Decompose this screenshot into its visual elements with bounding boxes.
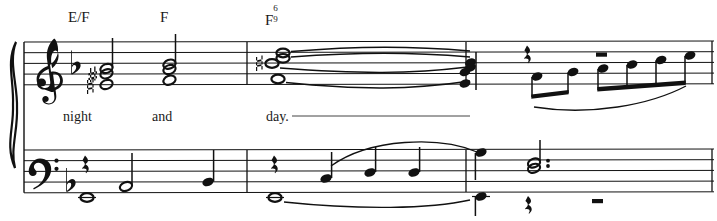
lyric-night: night [63, 110, 92, 124]
chord-extension-bottom: 9 [273, 15, 278, 24]
bass-quarter-rest-m1 [82, 155, 89, 173]
bass-slur-m2 [331, 142, 477, 166]
chord-symbol-2: F [160, 10, 168, 25]
whole-rest-bass [592, 199, 603, 203]
treble-clef-icon [37, 39, 63, 105]
beamed-eighths-group-1 [530, 66, 579, 98]
bass-quarter-rest-m3 [525, 196, 532, 214]
beamed-eighths-group-2 [596, 50, 696, 92]
bass-quarter-notes-m2 [319, 147, 421, 184]
treble-ties [280, 47, 470, 88]
chord-symbol-3: F69 [265, 10, 281, 28]
bass-dotted-half-chord-m3 [527, 140, 550, 174]
chord-symbol-3-extension: 69 [273, 10, 281, 25]
bass-quarter-note-m1 [201, 150, 215, 188]
lyric-and: and [152, 110, 172, 124]
chord-symbol-3-label: F [265, 12, 273, 28]
chord-symbol-1-label: E/F [68, 9, 90, 25]
chord-symbol-1: E/F [68, 10, 90, 25]
treble-key-signature-flat [71, 51, 80, 75]
quarter-rest-treble [524, 46, 531, 64]
bass-half-note-m1 [119, 153, 134, 193]
bass-tie-m2 [284, 200, 470, 207]
chord-symbol-2-label: F [160, 9, 168, 25]
notation-layer [0, 0, 717, 221]
whole-rest-treble [596, 53, 607, 57]
lyric-day: day. [266, 110, 289, 124]
system-brace [10, 42, 17, 168]
treble-chord-measure-1 [99, 38, 114, 91]
chord-extension-top: 6 [273, 4, 278, 13]
treble-chord-measure-3 [265, 49, 289, 84]
sheet-music-score: E/F F F69 night and day. [0, 0, 717, 221]
bass-clef-icon [29, 158, 59, 189]
